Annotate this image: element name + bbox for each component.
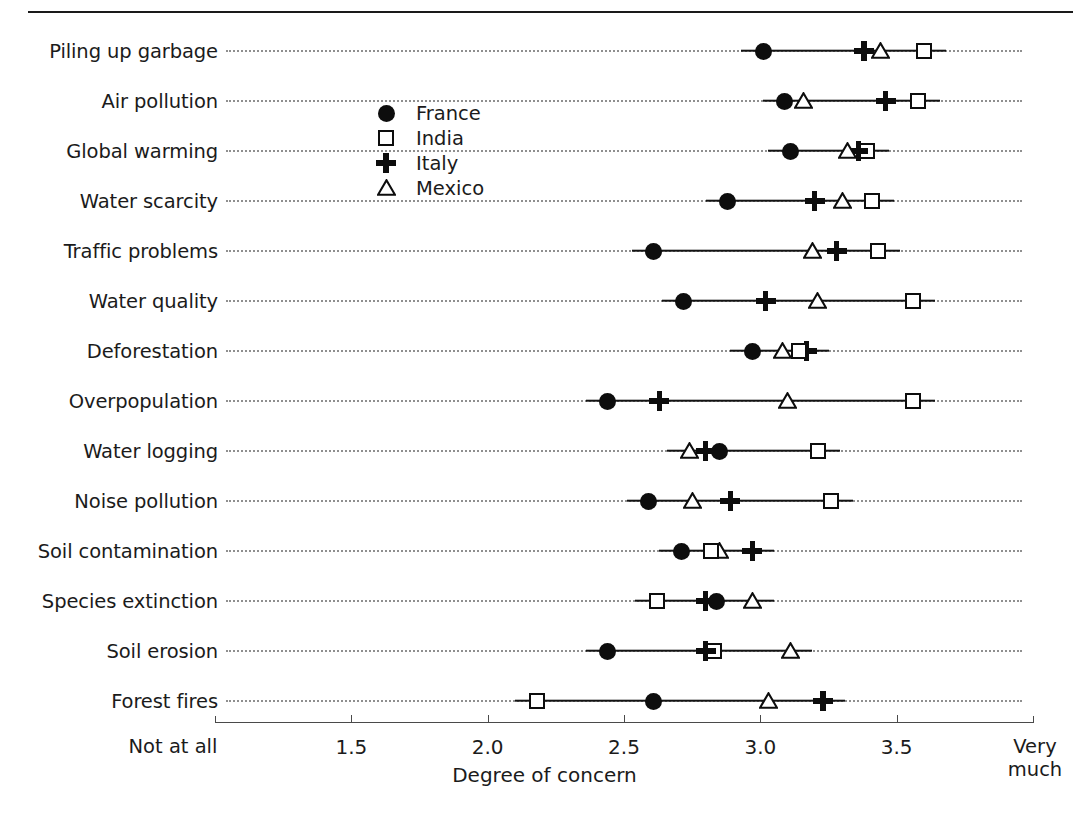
x-axis-tick-label: 2.0 <box>472 735 504 759</box>
legend-item-mexico[interactable]: Mexico <box>372 176 522 201</box>
x-axis-tick-label: 1.5 <box>335 735 367 759</box>
legend-marker-france <box>378 105 395 122</box>
x-axis-start-label-text: Not at all <box>129 735 218 758</box>
legend-item-italy[interactable]: Italy <box>372 151 522 176</box>
range-bar <box>515 700 845 702</box>
x-axis-tick-label: 3.5 <box>881 735 913 759</box>
data-marker-france <box>645 693 662 710</box>
gridline <box>226 200 1022 202</box>
data-marker-italy <box>696 641 716 661</box>
gridline <box>226 150 1022 152</box>
legend-marker-india <box>378 130 394 146</box>
data-marker-italy <box>696 591 716 611</box>
data-marker-india <box>910 93 926 109</box>
data-marker-italy <box>813 691 833 711</box>
chart-legend: FranceIndiaItalyMexico <box>372 101 522 201</box>
category-label: Overpopulation <box>69 390 218 413</box>
legend-marker-mexico <box>377 179 396 196</box>
x-axis-cap-left <box>215 716 216 723</box>
data-marker-mexico <box>778 392 797 409</box>
category-label: Soil erosion <box>106 640 218 663</box>
gridline <box>226 550 1022 552</box>
chart-row: Traffic problems <box>0 226 1089 276</box>
category-label: Noise pollution <box>74 490 218 513</box>
legend-label: France <box>416 101 481 126</box>
category-label: Forest fires <box>111 690 218 713</box>
data-marker-mexico <box>683 492 702 509</box>
chart-row: Water scarcity <box>0 176 1089 226</box>
chart-row: Overpopulation <box>0 376 1089 426</box>
chart-row: Air pollution <box>0 76 1089 126</box>
range-bar <box>632 250 900 252</box>
category-label: Water logging <box>83 440 218 463</box>
chart-row: Soil contamination <box>0 526 1089 576</box>
data-marker-india <box>916 43 932 59</box>
chart-row: Global warming <box>0 126 1089 176</box>
x-axis-tick <box>897 715 898 723</box>
data-marker-india <box>864 193 880 209</box>
gridline <box>226 250 1022 252</box>
category-label: Air pollution <box>101 90 218 113</box>
data-marker-france <box>782 143 799 160</box>
x-axis-cap-right <box>1033 716 1034 723</box>
range-bar <box>662 300 935 302</box>
gridline <box>226 500 1022 502</box>
plot-area: Piling up garbageAir pollutionGlobal war… <box>0 0 1089 824</box>
data-marker-france <box>645 243 662 260</box>
legend-item-india[interactable]: India <box>372 126 522 151</box>
data-marker-france <box>776 93 793 110</box>
data-marker-italy <box>649 391 669 411</box>
chart-row: Soil erosion <box>0 626 1089 676</box>
category-label: Water scarcity <box>80 190 218 213</box>
legend-item-france[interactable]: France <box>372 101 522 126</box>
data-marker-india <box>529 693 545 709</box>
data-marker-mexico <box>808 292 827 309</box>
category-label: Global warming <box>66 140 218 163</box>
data-marker-france <box>599 643 616 660</box>
data-marker-mexico <box>759 692 778 709</box>
data-marker-italy <box>756 291 776 311</box>
legend-label: Italy <box>416 151 458 176</box>
chart-figure: Piling up garbageAir pollutionGlobal war… <box>0 0 1089 824</box>
data-marker-india <box>905 293 921 309</box>
data-marker-italy <box>854 41 874 61</box>
category-label: Deforestation <box>87 340 218 363</box>
data-marker-mexico <box>781 642 800 659</box>
data-marker-france <box>744 343 761 360</box>
data-marker-mexico <box>838 142 857 159</box>
chart-row: Species extinction <box>0 576 1089 626</box>
data-marker-mexico <box>833 192 852 209</box>
x-axis-tick <box>624 715 625 723</box>
x-axis-title: Degree of concern <box>0 763 1089 787</box>
x-axis-start-label: Not at all <box>118 735 228 758</box>
chart-row: Piling up garbage <box>0 26 1089 76</box>
chart-row: Water logging <box>0 426 1089 476</box>
legend-marker-italy <box>376 153 396 173</box>
category-label: Water quality <box>89 290 218 313</box>
data-marker-mexico <box>773 342 792 359</box>
chart-row: Forest fires <box>0 676 1089 726</box>
data-marker-italy <box>742 541 762 561</box>
data-marker-france <box>673 543 690 560</box>
data-marker-italy <box>827 241 847 261</box>
x-axis-tick-label: 3.0 <box>744 735 776 759</box>
gridline <box>226 450 1022 452</box>
x-axis-tick-label: 2.5 <box>608 735 640 759</box>
data-marker-mexico <box>743 592 762 609</box>
chart-row: Deforestation <box>0 326 1089 376</box>
data-marker-italy <box>720 491 740 511</box>
data-marker-india <box>823 493 839 509</box>
chart-row: Noise pollution <box>0 476 1089 526</box>
data-marker-india <box>703 543 719 559</box>
data-marker-india <box>649 593 665 609</box>
gridline <box>226 350 1022 352</box>
data-marker-france <box>675 293 692 310</box>
chart-row: Water quality <box>0 276 1089 326</box>
data-marker-france <box>755 43 772 60</box>
legend-label: Mexico <box>416 176 484 201</box>
legend-label: India <box>416 126 464 151</box>
gridline <box>226 600 1022 602</box>
data-marker-mexico <box>803 242 822 259</box>
category-label: Soil contamination <box>38 540 218 563</box>
data-marker-france <box>599 393 616 410</box>
